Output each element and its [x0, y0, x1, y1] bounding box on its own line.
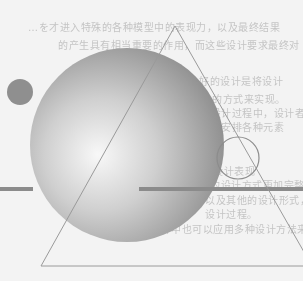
large-gray-sphere [30, 48, 224, 242]
left-horizontal-bar [0, 187, 33, 191]
small-dark-circle [7, 79, 33, 105]
scanned-page: …を才进入特殊的各种模型中的表现力，以及最终结果的产生具有相当重要的作用，而这些… [0, 0, 303, 281]
right-horizontal-bar [139, 187, 303, 191]
geometric-illustration [0, 0, 303, 281]
outline-circle [217, 137, 259, 179]
